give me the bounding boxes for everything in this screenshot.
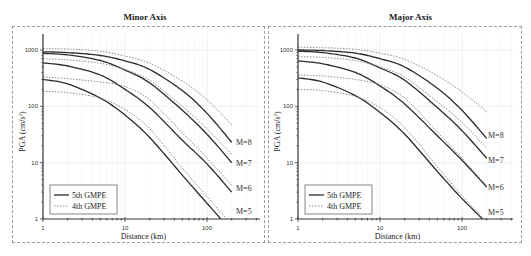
x-tick-label: 1	[296, 225, 300, 231]
y-tick-label: 10	[31, 160, 38, 166]
y-tick-label: 1000	[280, 47, 294, 53]
y-tick-label: 1000	[25, 47, 39, 53]
magnitude-label: M=6	[236, 184, 252, 193]
y-axis-label: PGA (cm/s2)	[18, 111, 27, 152]
y-tick-label: 1	[35, 216, 39, 222]
legend: 5th GMPE4th GMPE	[50, 185, 117, 214]
y-tick-label: 100	[283, 103, 294, 109]
legend: 5th GMPE4th GMPE	[305, 185, 372, 214]
chart-major-axis: 1101001000110100Distance (km)PGA (cm/s2)…	[266, 0, 531, 256]
x-tick-label: 100	[457, 225, 468, 231]
x-tick-label: 10	[122, 225, 129, 231]
magnitude-label: M=8	[236, 138, 252, 147]
x-tick-label: 10	[377, 225, 384, 231]
magnitude-label: M=7	[236, 159, 252, 168]
x-axis-label: Distance (km)	[375, 232, 421, 241]
y-tick-label: 100	[28, 103, 39, 109]
magnitude-label: M=7	[488, 156, 504, 165]
magnitude-label: M=5	[236, 207, 252, 216]
magnitude-label: M=6	[488, 183, 504, 192]
legend-label: 4th GMPE	[72, 202, 107, 211]
legend-label: 5th GMPE	[72, 191, 107, 200]
legend-label: 5th GMPE	[327, 191, 362, 200]
y-tick-label: 10	[286, 160, 293, 166]
panel-major-axis: Major Axis 1101001000110100Distance (km)…	[266, 0, 531, 256]
panel-minor-axis: Minor Axis 1101001000110100Distance (km)…	[0, 0, 266, 256]
magnitude-label: M=5	[488, 208, 504, 217]
x-axis-label: Distance (km)	[121, 232, 167, 241]
x-tick-label: 1	[41, 225, 45, 231]
legend-label: 4th GMPE	[327, 202, 362, 211]
chart-minor-axis: 1101001000110100Distance (km)PGA (cm/s2)…	[0, 0, 266, 256]
y-axis-label: PGA (cm/s2)	[273, 111, 282, 152]
x-tick-label: 100	[202, 225, 213, 231]
y-tick-label: 1	[290, 216, 294, 222]
magnitude-label: M=8	[488, 131, 504, 140]
